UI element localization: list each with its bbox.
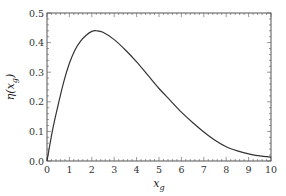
y-tick-label: 0.3 [29, 67, 44, 78]
y-tick-label: 0.1 [29, 126, 44, 137]
line-chart: 012345678910 0.00.10.20.30.40.5 xg η(xg) [0, 0, 286, 196]
y-tick-label: 0.2 [29, 96, 44, 107]
x-tick-label: 8 [223, 164, 229, 175]
axis-ticks [47, 13, 271, 161]
x-tick-label: 6 [178, 164, 184, 175]
x-tick-label: 2 [89, 164, 95, 175]
y-axis-label: η(xg) [4, 74, 19, 101]
y-tick-label: 0.0 [29, 156, 44, 167]
x-tick-label: 4 [134, 164, 140, 175]
y-tick-labels: 0.00.10.20.30.40.5 [29, 8, 44, 167]
data-line-eta [47, 31, 271, 161]
plot-frame [47, 13, 271, 161]
x-axis-label: xg [153, 177, 164, 192]
x-tick-label: 0 [44, 164, 50, 175]
x-tick-label: 3 [111, 164, 117, 175]
x-tick-label: 7 [201, 164, 207, 175]
x-tick-label: 5 [156, 164, 162, 175]
x-tick-labels: 012345678910 [44, 164, 277, 175]
y-tick-label: 0.4 [29, 37, 44, 48]
y-tick-label: 0.5 [29, 8, 44, 19]
x-tick-label: 10 [265, 164, 277, 175]
x-tick-label: 1 [66, 164, 72, 175]
x-tick-label: 9 [246, 164, 252, 175]
